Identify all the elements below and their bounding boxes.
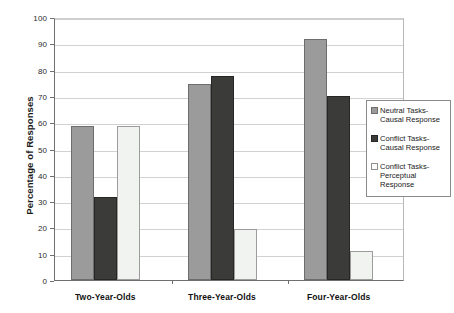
y-axis-tick-label: 20 xyxy=(38,224,47,233)
legend-label: Conflict Tasks-Perceptual Response xyxy=(380,162,447,190)
y-axis-tick-label: 70 xyxy=(38,92,47,101)
y-axis-tick-label: 60 xyxy=(38,119,47,128)
legend-swatch-conflict-perceptual-icon xyxy=(371,163,378,170)
bar-chart: Percentage of Responses 0102030405060708… xyxy=(0,0,454,313)
plot-area: Two-Year-OldsThree-Year-OldsFour-Year-Ol… xyxy=(54,18,404,281)
x-axis-tick-mark xyxy=(172,280,173,284)
y-axis-tick-label: 40 xyxy=(38,171,47,180)
bar[interactable] xyxy=(188,84,211,280)
bar[interactable] xyxy=(117,126,140,280)
bar[interactable] xyxy=(71,126,94,280)
legend-item: Conflict Tasks-Perceptual Response xyxy=(371,162,447,190)
bar[interactable] xyxy=(94,197,117,280)
chart-legend: Neutral Tasks-Causal Response Conflict T… xyxy=(366,100,451,197)
y-axis-tick-label: 10 xyxy=(38,250,47,259)
x-axis-tick-label: Two-Year-Olds xyxy=(75,292,136,302)
bar-group xyxy=(71,19,140,280)
y-axis-tick-label: 90 xyxy=(38,40,47,49)
legend-label: Conflict Tasks-Causal Response xyxy=(380,134,447,153)
bar[interactable] xyxy=(350,251,373,280)
y-axis-tick-label: 30 xyxy=(38,198,47,207)
y-axis-tick-label: 100 xyxy=(33,14,47,23)
bar[interactable] xyxy=(234,229,257,280)
y-axis-tick-label: 80 xyxy=(38,66,47,75)
x-axis-tick-label: Three-Year-Olds xyxy=(188,292,256,302)
x-axis-tick-mark xyxy=(288,280,289,284)
bar[interactable] xyxy=(211,76,234,280)
bar-group xyxy=(188,19,257,280)
bar[interactable] xyxy=(327,96,350,280)
y-axis-tick-mark xyxy=(50,281,54,282)
y-axis-tick-label: 0 xyxy=(42,277,47,286)
y-axis-tick-container: 0102030405060708090100 xyxy=(0,0,54,263)
x-axis-tick-label: Four-Year-Olds xyxy=(307,292,371,302)
legend-swatch-conflict-causal-icon xyxy=(371,135,378,142)
bar[interactable] xyxy=(304,39,327,280)
bar-group xyxy=(304,19,373,280)
legend-item: Neutral Tasks-Causal Response xyxy=(371,106,447,125)
y-axis-tick-label: 50 xyxy=(38,145,47,154)
legend-swatch-neutral-causal-icon xyxy=(371,107,378,114)
legend-label: Neutral Tasks-Causal Response xyxy=(380,106,447,125)
legend-item: Conflict Tasks-Causal Response xyxy=(371,134,447,153)
